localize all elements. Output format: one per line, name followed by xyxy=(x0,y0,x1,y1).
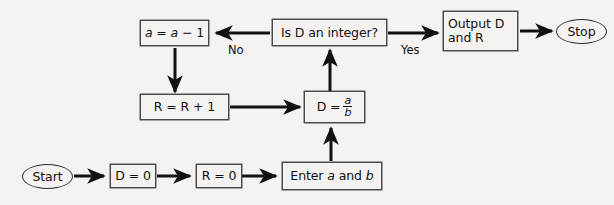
node-r-init-label: R = 0 xyxy=(202,169,237,183)
node-decrement-a: a = a − 1 xyxy=(140,20,209,46)
node-divide-label: D =ab xyxy=(317,96,353,119)
node-divide-d-equals-a-over-b: D =ab xyxy=(304,91,365,123)
node-d-init: D = 0 xyxy=(110,164,156,188)
node-decision-label: Is D an integer? xyxy=(281,26,378,40)
node-decision-is-d-integer: Is D an integer? xyxy=(272,19,387,46)
fraction-numerator: a xyxy=(344,95,353,106)
fraction-denominator: b xyxy=(343,106,352,118)
enter-pre: Enter xyxy=(290,168,327,183)
node-output-label: Output D and R xyxy=(444,17,517,45)
enter-mid: and xyxy=(335,168,366,183)
flowchart-diagram: a = a − 1 Is D an integer? Output D and … xyxy=(0,0,614,205)
edge-label-no: No xyxy=(228,43,244,57)
node-decrement-a-label: a = a − 1 xyxy=(145,26,204,40)
var-a-right: a xyxy=(171,25,179,40)
node-r-init: R = 0 xyxy=(196,164,242,188)
divide-lead: D = xyxy=(317,100,341,114)
var-b: b xyxy=(366,168,374,183)
edge-label-yes: Yes xyxy=(401,43,420,57)
var-a: a xyxy=(327,168,335,183)
node-enter-a-and-b: Enter a and b xyxy=(282,162,382,190)
node-increment-r-label: R = R + 1 xyxy=(154,100,215,114)
node-d-init-label: D = 0 xyxy=(115,169,151,183)
decrement-rest: − 1 xyxy=(178,25,204,40)
fraction-a-over-b: ab xyxy=(343,95,352,118)
node-output-d-and-r: Output D and R xyxy=(443,11,518,51)
node-stop-label: Stop xyxy=(567,25,595,39)
decrement-eq: = xyxy=(152,25,170,40)
node-start: Start xyxy=(22,164,73,189)
node-increment-r: R = R + 1 xyxy=(140,94,229,120)
node-stop: Stop xyxy=(556,19,607,44)
node-start-label: Start xyxy=(32,170,62,184)
node-enter-ab-label: Enter a and b xyxy=(290,169,373,183)
